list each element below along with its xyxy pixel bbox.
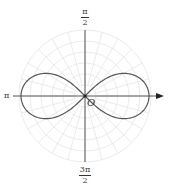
polar-plot bbox=[0, 0, 169, 192]
label-origin: O bbox=[87, 98, 95, 108]
label-pi-over-2: π 2 bbox=[79, 8, 91, 27]
label-bottom-numerator: 3π bbox=[79, 166, 91, 176]
axes bbox=[13, 30, 164, 162]
label-top-numerator: π bbox=[81, 8, 88, 18]
label-3pi-over-2: 3π 2 bbox=[77, 166, 93, 185]
label-pi: π bbox=[4, 92, 9, 100]
label-top-denominator: 2 bbox=[82, 18, 87, 27]
arrow-head-icon bbox=[156, 93, 164, 99]
label-bottom-denominator: 2 bbox=[82, 176, 87, 185]
